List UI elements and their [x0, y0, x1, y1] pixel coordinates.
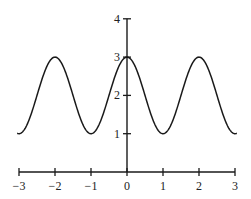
y-ticks: 1234	[114, 12, 131, 141]
x-tick-label: 2	[196, 179, 202, 193]
x-tick-label: −2	[49, 179, 62, 193]
y-tick-label: 3	[114, 50, 120, 64]
function-graph: −3−2−10123 1234	[0, 0, 251, 199]
y-tick-label: 4	[114, 12, 120, 26]
x-tick-label: 1	[160, 179, 166, 193]
x-tick-label: −1	[85, 179, 98, 193]
y-tick-label: 1	[114, 127, 120, 141]
x-tick-label: −3	[13, 179, 26, 193]
y-tick-label: 2	[114, 88, 120, 102]
x-tick-label: 3	[232, 179, 238, 193]
x-tick-label: 0	[124, 179, 130, 193]
